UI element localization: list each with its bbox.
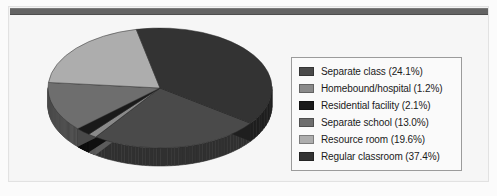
pie-slice-side bbox=[111, 142, 114, 161]
legend-item-separate-class[interactable]: Separate class (24.1%) bbox=[299, 63, 455, 80]
pie-slice-side bbox=[178, 147, 182, 165]
pie-slice-side bbox=[262, 110, 264, 131]
pie-slice-side bbox=[196, 144, 199, 163]
pie-slice-side bbox=[203, 143, 206, 162]
pie-slice-side bbox=[146, 148, 150, 166]
pie-slice-side bbox=[216, 139, 219, 158]
legend-item-label: Separate school (13.0%) bbox=[321, 117, 429, 128]
pie-slice-side bbox=[209, 141, 212, 160]
legend-swatch-icon bbox=[299, 135, 314, 144]
pie-slice-side bbox=[225, 136, 228, 155]
pie-slice-side bbox=[259, 113, 261, 134]
pie-slice-side bbox=[186, 146, 190, 164]
pie-slice-side bbox=[164, 148, 168, 166]
pie-slice-side bbox=[128, 146, 131, 165]
pie-slice-side bbox=[206, 142, 209, 161]
pie-slice-side bbox=[142, 147, 146, 165]
pie-slice-side bbox=[193, 145, 196, 164]
pie-slice-side bbox=[175, 147, 179, 165]
pie-slice-side bbox=[160, 148, 164, 166]
pie-slice-side bbox=[121, 144, 124, 163]
pie-slice-side bbox=[153, 148, 157, 166]
legend-item-label: Separate class (24.1%) bbox=[321, 66, 423, 77]
plot-area: Separate class (24.1%) Homebound/hospita… bbox=[10, 16, 488, 180]
pie-slices bbox=[48, 28, 272, 148]
pie-slice-side bbox=[171, 147, 175, 165]
pie-slice-side bbox=[231, 133, 234, 152]
pie-slice-side bbox=[149, 148, 153, 166]
pie-chart-svg bbox=[26, 16, 286, 180]
pie-slice-side bbox=[135, 147, 139, 165]
pie-slice-side bbox=[219, 138, 222, 157]
legend-item-label: Resource room (19.6%) bbox=[321, 134, 425, 145]
legend-item-label: Regular classroom (37.4%) bbox=[321, 151, 440, 162]
legend-item-label: Homebound/hospital (1.2%) bbox=[321, 83, 442, 94]
legend-swatch-icon bbox=[299, 101, 314, 110]
legend-item-homebound-hospital[interactable]: Homebound/hospital (1.2%) bbox=[299, 80, 455, 97]
pie-chart bbox=[26, 16, 286, 180]
pie-slice-side bbox=[213, 140, 216, 159]
pie-slice-side bbox=[118, 144, 121, 163]
legend-item-separate-school[interactable]: Separate school (13.0%) bbox=[299, 114, 455, 131]
pie-slice-side bbox=[257, 116, 260, 137]
header-rule bbox=[10, 8, 488, 15]
pie-slice-side bbox=[251, 121, 254, 141]
legend-swatch-icon bbox=[299, 67, 314, 76]
chart-screenshot: Separate class (24.1%) Homebound/hospita… bbox=[0, 0, 497, 196]
legend-item-resource-room[interactable]: Resource room (19.6%) bbox=[299, 131, 455, 148]
pie-slice-side bbox=[157, 148, 161, 166]
pie-slice-side bbox=[189, 145, 192, 164]
pie-slice-side bbox=[168, 148, 172, 166]
legend-item-regular-classroom[interactable]: Regular classroom (37.4%) bbox=[299, 148, 455, 165]
pie-slice-side bbox=[139, 147, 143, 165]
legend-item-residential-facility[interactable]: Residential facility (2.1%) bbox=[299, 97, 455, 114]
legend-item-label: Residential facility (2.1%) bbox=[321, 100, 431, 111]
pie-slice-side bbox=[228, 135, 231, 154]
pie-slice-side bbox=[222, 137, 225, 156]
pie-slice-side bbox=[199, 143, 202, 162]
pie-slice-side bbox=[115, 143, 118, 162]
chart-legend: Separate class (24.1%) Homebound/hospita… bbox=[291, 57, 462, 171]
legend-swatch-icon bbox=[299, 84, 314, 93]
pie-slice-side bbox=[254, 118, 257, 139]
pie-slice-side bbox=[182, 146, 186, 164]
pie-slice-side bbox=[132, 146, 136, 164]
legend-swatch-icon bbox=[299, 118, 314, 127]
pie-slice-side bbox=[125, 145, 128, 164]
legend-swatch-icon bbox=[299, 152, 314, 161]
